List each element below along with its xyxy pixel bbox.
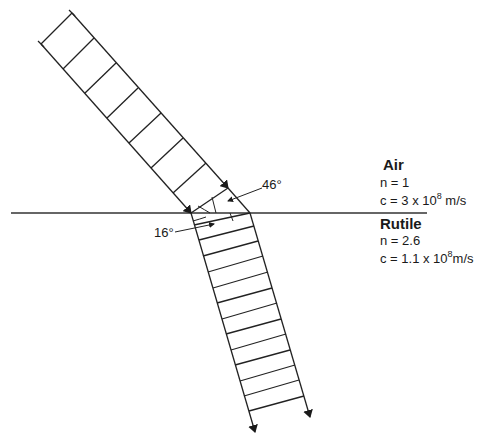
medium-air-name: Air <box>383 157 404 172</box>
medium-rutile-name: Rutile <box>380 216 422 231</box>
refracted-wavefronts <box>194 213 304 411</box>
medium-air-c: c = 3 x 108 m/s <box>380 193 466 207</box>
incident-ray-right-tail <box>228 188 250 213</box>
incident-wavefronts <box>41 13 228 213</box>
refracted-angle-label: 16° <box>154 226 174 239</box>
refracted-ray-left <box>191 213 255 432</box>
incident-ray-right <box>72 13 228 188</box>
refracted-ray-right <box>250 213 310 417</box>
incident-beam <box>38 10 250 213</box>
medium-air-n: n = 1 <box>380 176 409 189</box>
refracted-beam <box>191 213 310 432</box>
medium-rutile-c: c = 1.1 x 108m/s <box>380 251 474 265</box>
medium-rutile-n: n = 2.6 <box>380 234 420 247</box>
incident-angle-label: 46° <box>262 178 282 191</box>
refraction-diagram: 46° 16° Air n = 1 c = 3 x 108 m/s Rutile… <box>0 0 479 441</box>
